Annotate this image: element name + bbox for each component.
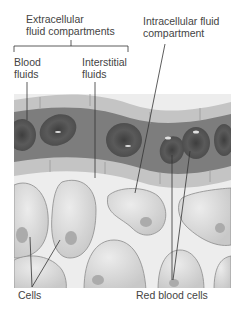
- label-red-blood-cells: Red blood cells: [136, 289, 208, 301]
- label-intracellular: Intracellular fluid compartment: [143, 15, 219, 39]
- label-extracellular: Extracellular fluid compartments: [26, 13, 115, 37]
- label-cells: Cells: [18, 289, 41, 301]
- label-interstitial-fluids: Interstitial fluids: [82, 56, 127, 80]
- label-blood-fluids: Blood fluids: [14, 56, 41, 80]
- fluid-compartments-diagram: [0, 0, 231, 311]
